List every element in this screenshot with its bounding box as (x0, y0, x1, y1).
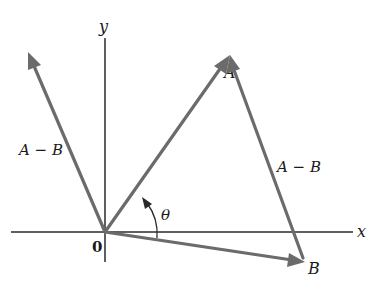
x-axis-label: x (357, 222, 366, 241)
vector-b-label: B (307, 259, 320, 278)
vector-a-minus-b-origin-label: A − B (17, 141, 63, 159)
vector-b (105, 232, 305, 267)
vector-a-minus-b-origin-arrowhead-icon (28, 52, 41, 70)
origin-label: 0 (92, 238, 102, 256)
y-axis-label: y (98, 17, 109, 36)
vector-a-minus-b-triangle (226, 55, 303, 258)
angle-theta-label: θ (161, 206, 170, 224)
vector-a-minus-b-triangle-label: A − B (275, 158, 321, 176)
vector-diagram: x y 0 A B A − B A − B θ (0, 0, 385, 290)
